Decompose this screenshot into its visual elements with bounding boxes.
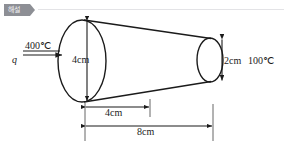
small-face-ellipse [197,38,223,82]
large-diameter-label: 4cm [72,54,89,65]
cone-top-slant [84,20,211,39]
hot-temperature-label: 400℃ [25,40,51,51]
diagram-canvas: 해설 [0,0,287,151]
total-length-label: 8cm [137,126,154,137]
heat-flux-label: q [12,54,17,65]
small-diameter-label: 2cm [224,55,241,66]
heat-flux-arrow-icon [23,51,62,55]
mid-length-label: 4cm [105,107,122,118]
cold-temperature-label: 100℃ [248,55,274,66]
cone-bottom-slant [84,82,211,103]
